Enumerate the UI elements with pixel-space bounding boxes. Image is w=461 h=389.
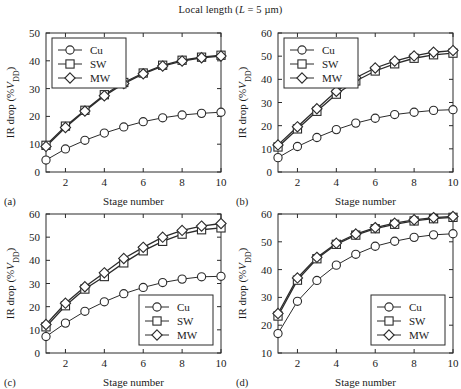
y-tick-label: 60 (261, 208, 273, 220)
datapoint-cu (178, 111, 186, 119)
y-tick-label: 30 (261, 97, 273, 109)
y-axis-title: IR drop (%VDD) (4, 247, 21, 319)
plot-c: 0102030405060246810Stage numberIR drop (… (0, 199, 229, 389)
datapoint-cu (217, 272, 225, 280)
legend: CuSWMW (284, 38, 358, 88)
y-tick-label: 40 (29, 55, 41, 67)
legend-box (284, 38, 358, 88)
y-tick-label: 30 (29, 278, 41, 290)
panel-tag-c: (c) (4, 377, 16, 389)
x-tick-label: 6 (372, 357, 378, 369)
x-tick-label: 8 (411, 357, 417, 369)
y-tick-label: 50 (261, 236, 273, 248)
datapoint-cu (139, 283, 147, 291)
legend-label-cu: Cu (322, 44, 335, 56)
panel-a: 01020304050246810Stage numberIR drop (%V… (0, 18, 229, 208)
y-axis-title: IR drop (%VDD) (236, 66, 253, 138)
datapoint-cu (332, 126, 340, 134)
x-tick-label: 10 (216, 357, 228, 369)
datapoint-cu (429, 106, 437, 114)
plot-b: 0102030405060246810Stage numberIR drop (… (232, 18, 461, 208)
datapoint-cu (332, 261, 340, 269)
legend: CuSWMW (371, 295, 445, 345)
y-tick-label: 0 (35, 347, 41, 359)
y-axis-title: IR drop (%VDD) (236, 247, 253, 319)
datapoint-cu (100, 129, 108, 137)
x-tick-label: 4 (334, 357, 340, 369)
figure-root: Local length (L = 5 µm) 0102030405024681… (0, 0, 461, 389)
datapoint-cu (81, 307, 89, 315)
x-tick-label: 8 (411, 176, 417, 188)
legend-label-cu: Cu (409, 301, 422, 313)
datapoint-cu (371, 242, 379, 250)
datapoint-cu (197, 109, 205, 117)
legend: CuSWMW (52, 38, 126, 88)
y-tick-label: 20 (261, 319, 273, 331)
datapoint-cu (410, 108, 418, 116)
legend-box (371, 295, 445, 345)
panel-tag-d: (d) (236, 377, 249, 389)
datapoint-cu (61, 145, 69, 153)
figure-title: Local length (L = 5 µm) (0, 4, 461, 15)
x-tick-label: 10 (448, 357, 460, 369)
legend-label-mw: MW (90, 72, 111, 84)
datapoint-cu (391, 237, 399, 245)
legend-marker-cu (153, 303, 161, 311)
y-tick-label: 40 (261, 73, 273, 85)
legend: CuSWMW (139, 295, 213, 345)
datapoint-cu (449, 106, 457, 114)
y-tick-label: 40 (261, 264, 273, 276)
legend-label-mw: MW (409, 329, 430, 341)
y-tick-label: 40 (29, 254, 41, 266)
datapoint-cu (178, 275, 186, 283)
series-line-cu (278, 110, 453, 158)
datapoint-cu (61, 319, 69, 327)
panel-c: 0102030405060246810Stage numberIR drop (… (0, 199, 229, 389)
x-tick-label: 2 (295, 357, 301, 369)
x-tick-label: 10 (216, 176, 228, 188)
y-tick-label: 30 (261, 291, 273, 303)
datapoint-cu (293, 142, 301, 150)
datapoint-cu (352, 250, 360, 258)
y-tick-label: 0 (35, 166, 41, 178)
datapoint-cu (81, 136, 89, 144)
datapoint-cu (159, 278, 167, 286)
series-line-cu (46, 112, 221, 160)
y-tick-label: 10 (29, 324, 41, 336)
datapoint-cu (313, 276, 321, 284)
legend-label-sw: SW (90, 58, 107, 70)
datapoint-cu (429, 231, 437, 239)
panel-b: 0102030405060246810Stage numberIR drop (… (232, 18, 461, 208)
figure-title-prefix: Local length ( (179, 4, 239, 15)
y-tick-label: 50 (29, 27, 41, 39)
y-tick-label: 60 (261, 27, 273, 39)
legend-label-mw: MW (177, 329, 198, 341)
legend-label-sw: SW (322, 58, 339, 70)
datapoint-cu (410, 233, 418, 241)
y-tick-label: 10 (261, 347, 273, 359)
legend-box (139, 295, 213, 345)
x-tick-label: 6 (140, 176, 146, 188)
datapoint-cu (391, 110, 399, 118)
datapoint-cu (352, 119, 360, 127)
legend-label-sw: SW (177, 315, 194, 327)
datapoint-cu (371, 114, 379, 122)
legend-marker-cu (66, 46, 74, 54)
y-tick-label: 10 (29, 138, 41, 150)
datapoint-cu (159, 114, 167, 122)
datapoint-cu (120, 290, 128, 298)
legend-marker-sw (298, 60, 306, 68)
legend-box (52, 38, 126, 88)
legend-marker-sw (153, 317, 161, 325)
datapoint-cu (139, 118, 147, 126)
figure-title-suffix: = 5 µm) (245, 4, 283, 15)
legend-marker-sw (385, 317, 393, 325)
y-tick-label: 30 (29, 83, 41, 95)
x-tick-label: 4 (102, 176, 108, 188)
y-tick-label: 60 (29, 208, 41, 220)
datapoint-cu (42, 332, 50, 340)
datapoint-cu (197, 273, 205, 281)
y-tick-label: 0 (267, 166, 273, 178)
datapoint-cu (120, 123, 128, 131)
panel-d: 102030405060246810Stage numberIR drop (%… (232, 199, 461, 389)
